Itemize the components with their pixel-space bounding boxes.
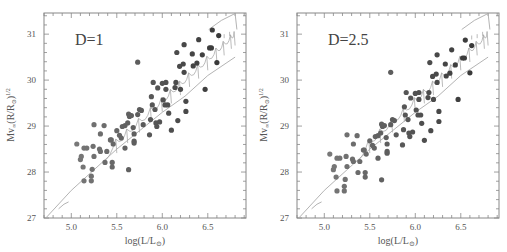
data-point	[453, 62, 458, 67]
data-point	[90, 167, 95, 172]
data-point	[372, 146, 377, 151]
data-point	[357, 159, 362, 164]
data-point	[400, 142, 405, 147]
y-tick-label: 29	[280, 121, 290, 131]
data-point	[431, 97, 436, 102]
data-point	[408, 95, 413, 100]
data-point	[342, 188, 347, 193]
x-tick-label: 5.0	[66, 222, 78, 232]
data-point	[183, 99, 188, 104]
panel-d2-5: 5.05.56.06.52728293031 D=2.5 log(L/L⊙) M…	[258, 13, 499, 248]
data-point	[410, 129, 415, 134]
data-point	[367, 138, 372, 143]
data-point	[435, 52, 440, 57]
data-point	[110, 160, 115, 165]
data-point	[332, 164, 337, 169]
data-point	[443, 61, 448, 66]
data-point	[416, 97, 421, 102]
data-points	[74, 27, 221, 183]
y-axis-label: Mv∞(R/R⊙)1/2	[258, 88, 270, 142]
data-point	[91, 122, 96, 127]
data-point	[84, 146, 89, 151]
panel-d1: 5.05.56.06.52728293031 D=1 log(L/L⊙) Mv∞…	[5, 13, 246, 248]
data-point	[154, 124, 159, 129]
data-point	[151, 80, 156, 85]
data-point	[74, 141, 79, 146]
data-point	[363, 170, 368, 175]
data-point	[165, 102, 170, 107]
x-tick-label: 5.5	[111, 222, 123, 232]
data-point	[404, 90, 409, 95]
data-point	[462, 55, 467, 60]
model-track-loops	[103, 32, 235, 162]
y-tick-label: 30	[280, 75, 290, 85]
data-point	[102, 123, 107, 128]
data-point	[351, 159, 356, 164]
data-point	[422, 138, 427, 143]
data-point	[125, 120, 130, 125]
data-point	[384, 135, 389, 140]
x-tick-label: 6.0	[157, 222, 169, 232]
data-point	[148, 117, 153, 122]
data-point	[388, 122, 393, 127]
data-point	[379, 177, 384, 182]
panel-annotation: D=1	[75, 31, 104, 48]
data-point	[183, 109, 188, 114]
data-point	[375, 156, 380, 161]
data-point	[327, 152, 332, 157]
data-point	[337, 156, 342, 161]
data-point	[351, 141, 356, 146]
data-point	[416, 90, 421, 95]
data-point	[122, 146, 127, 151]
data-point	[196, 37, 201, 42]
data-point	[139, 108, 144, 113]
data-point	[89, 174, 94, 179]
data-point	[427, 60, 432, 65]
data-point	[405, 117, 410, 122]
data-point	[434, 72, 439, 77]
data-point	[355, 170, 360, 175]
x-axis-label: log(L/L⊙)	[125, 235, 165, 248]
chart-canvas: 5.05.56.06.52728293031 D=1 log(L/L⊙) Mv∞…	[0, 0, 507, 252]
data-point	[378, 130, 383, 135]
data-point	[392, 118, 397, 123]
data-point	[426, 90, 431, 95]
data-point	[102, 160, 107, 165]
data-point	[178, 87, 183, 92]
data-point	[157, 119, 162, 124]
data-point	[436, 119, 441, 124]
x-tick-label: 5.5	[364, 222, 376, 232]
data-point	[385, 151, 390, 156]
data-point	[182, 70, 187, 75]
data-point	[425, 95, 430, 100]
data-point	[132, 131, 137, 136]
y-axis-label: Mv∞(R/R⊙)1/2	[5, 88, 17, 142]
data-point	[344, 164, 349, 169]
data-point	[79, 154, 84, 159]
data-point	[111, 141, 116, 146]
data-point	[334, 175, 339, 180]
data-point	[344, 132, 349, 137]
model-track-line	[299, 57, 488, 218]
data-point	[152, 107, 157, 112]
data-point	[382, 123, 387, 128]
data-point	[175, 118, 180, 123]
data-point	[209, 45, 214, 50]
data-point	[98, 131, 103, 136]
data-point	[91, 144, 96, 149]
data-point	[172, 85, 177, 90]
data-point	[344, 154, 349, 159]
data-point	[194, 61, 199, 66]
axis-ticks: 5.05.56.06.52728293031	[27, 13, 246, 232]
data-point	[181, 61, 186, 66]
data-point	[214, 60, 219, 65]
data-point	[343, 177, 348, 182]
x-tick-label: 5.0	[319, 222, 331, 232]
data-point	[173, 80, 178, 85]
data-point	[428, 128, 433, 133]
x-axis-label: log(L/L⊙)	[378, 235, 418, 248]
data-point	[469, 43, 474, 48]
data-point	[363, 175, 368, 180]
data-point	[110, 164, 115, 169]
data-point	[155, 85, 160, 90]
